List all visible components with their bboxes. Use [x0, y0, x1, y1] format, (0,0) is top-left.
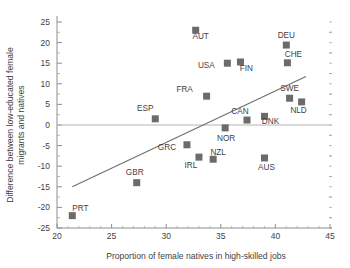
data-point-label: NOR [217, 134, 235, 143]
data-point-label: DNK [262, 117, 280, 126]
data-marker [183, 141, 190, 148]
data-point-label: AUT [192, 32, 208, 41]
data-marker [224, 60, 231, 67]
x-tick-label: 20 [52, 231, 62, 241]
data-point-labels-layer: PRTGBRESPGRCIRLAUTFRANZLNORUSAFINCANDNKA… [72, 31, 307, 213]
data-point-label: IRL [185, 161, 198, 170]
x-axis-title: Proportion of female natives in high-ski… [106, 251, 286, 261]
data-point-label: GBR [126, 168, 144, 177]
data-point-label: CHE [285, 50, 303, 59]
y-tick-label: 20 [41, 38, 51, 48]
data-point-label: CAN [231, 107, 248, 116]
y-tick-label: -20 [38, 202, 51, 212]
y-tick-label: -15 [38, 182, 51, 192]
data-marker [261, 154, 268, 161]
data-point-label: NZL [210, 148, 226, 157]
data-marker [283, 42, 290, 49]
y-tick-label: -10 [38, 161, 51, 171]
data-marker [222, 124, 229, 131]
data-point-label: SWE [280, 84, 299, 93]
data-marker [284, 59, 291, 66]
data-marker [298, 98, 305, 105]
data-marker [69, 212, 76, 219]
data-marker [203, 93, 210, 100]
x-tick-label: 35 [216, 231, 226, 241]
data-point-label: ESP [137, 104, 154, 113]
data-marker [244, 117, 251, 124]
data-point-label: GRC [158, 143, 176, 152]
data-point-label: DEU [278, 31, 295, 40]
data-point-label: FRA [176, 85, 193, 94]
data-marker [286, 95, 293, 102]
y-tick-label: -5 [42, 141, 50, 151]
y-tick-label: 15 [41, 58, 51, 68]
data-point-label: FIN [240, 64, 253, 73]
y-tick-label: -25 [38, 223, 51, 233]
axis-lines-layer [57, 16, 332, 228]
x-tick-labels-layer: 202530354045 [52, 231, 335, 241]
y-tick-labels-layer: 2520151050-5-10-15-20-25 [38, 17, 51, 233]
y-tick-label: 25 [41, 17, 51, 27]
data-marker [195, 154, 202, 161]
y-axis-title-line-2: migrants and natives [16, 85, 26, 164]
data-point-label: USA [198, 61, 215, 70]
scatter-plot-canvas: PRTGBRESPGRCIRLAUTFRANZLNORUSAFINCANDNKA… [0, 0, 350, 268]
y-tick-label: 5 [45, 99, 50, 109]
x-tick-label: 45 [325, 231, 335, 241]
data-point-label: PRT [72, 204, 88, 213]
y-axis-title-line-1: Difference between low-educated female [5, 47, 15, 203]
y-tick-label: 10 [41, 79, 51, 89]
x-tick-label: 25 [107, 231, 117, 241]
data-marker [152, 115, 159, 122]
x-tick-label: 40 [271, 231, 281, 241]
data-point-label: NLD [290, 106, 306, 115]
chart-figure: PRTGBRESPGRCIRLAUTFRANZLNORUSAFINCANDNKA… [0, 0, 350, 268]
data-point-label: AUS [258, 163, 275, 172]
y-tick-label: 0 [45, 120, 50, 130]
x-tick-label: 30 [161, 231, 171, 241]
data-marker [133, 179, 140, 186]
